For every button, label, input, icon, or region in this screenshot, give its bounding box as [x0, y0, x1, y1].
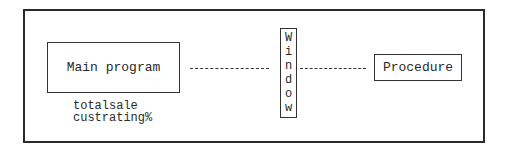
window-letter: i	[285, 45, 292, 59]
dashed-connector-main-to-window	[190, 68, 269, 69]
procedure-label: Procedure	[383, 60, 453, 75]
main-program-label: Main program	[67, 60, 161, 75]
window-letter: d	[285, 73, 292, 87]
variable-custrating: custrating%	[73, 112, 152, 124]
procedure-box: Procedure	[374, 54, 462, 81]
dashed-connector-window-to-procedure	[300, 68, 366, 69]
window-letter: o	[285, 87, 292, 101]
window-box: W i n d o w	[280, 28, 297, 118]
main-program-box: Main program	[47, 42, 180, 93]
window-letter: w	[285, 101, 292, 115]
window-letter: W	[285, 31, 292, 45]
window-letter: n	[285, 59, 292, 73]
variable-list: totalsalecustrating%	[73, 100, 152, 124]
